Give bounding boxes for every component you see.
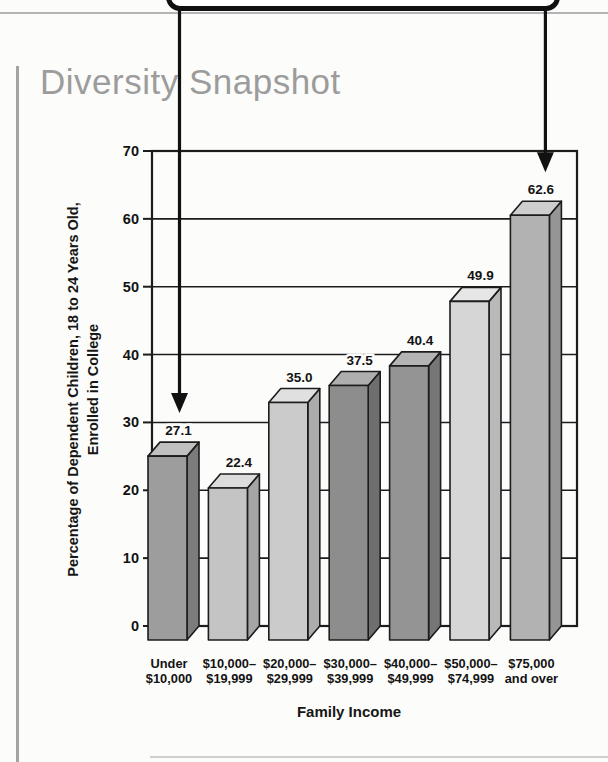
x-category-4-line1: $40,000– (384, 656, 437, 671)
textbook-figure-page: Diversity Snapshot Percentage of Depende… (0, 0, 608, 762)
x-category-1-line1: $10,000– (203, 656, 256, 671)
bar-1-side-face (247, 474, 259, 640)
x-category-2-line1: $20,000– (263, 656, 316, 671)
x-category-0-line2: $10,000 (146, 671, 192, 686)
x-category-3-line1: $30,000– (324, 656, 377, 671)
x-category-3-line2: $39,999 (327, 671, 373, 686)
bar-1-value-label: 22.4 (226, 455, 253, 470)
y-tick-label-30: 30 (123, 414, 139, 430)
x-category-5-line1: $50,000– (444, 656, 497, 671)
bar-2-side-face (308, 389, 320, 641)
bar-4-value-label: 40.4 (407, 333, 434, 348)
bar-6-value-label: 62.6 (528, 182, 555, 197)
annotation-arrowhead-6 (537, 152, 554, 172)
bar-chart: 01020304050607027.1Under$10,00022.4$10,0… (0, 0, 608, 762)
y-tick-label-60: 60 (123, 211, 139, 227)
x-category-5-line2: $74,999 (448, 671, 494, 686)
x-category-6-line2: and over (505, 671, 558, 686)
y-tick-label-40: 40 (123, 347, 139, 363)
bar-3 (329, 372, 380, 640)
y-tick-label-50: 50 (123, 279, 139, 295)
bar-5-value-label: 49.9 (467, 268, 493, 283)
bar-5-front-face (450, 301, 489, 640)
x-axis-title: Family Income (149, 703, 549, 720)
bar-4 (390, 352, 441, 640)
bar-5 (450, 287, 501, 640)
y-tick-label-70: 70 (123, 143, 139, 159)
y-tick-label-10: 10 (123, 550, 139, 566)
bar-6-side-face (549, 201, 561, 640)
y-tick-label-0: 0 (131, 618, 139, 634)
x-category-0-line1: Under (151, 656, 188, 671)
page-bottom-divider (150, 756, 608, 758)
x-category-6-line1: $75,000 (508, 656, 554, 671)
bar-6 (510, 201, 561, 640)
bar-3-side-face (368, 372, 380, 640)
bar-5-side-face (489, 287, 501, 640)
bar-2-value-label: 35.0 (286, 370, 312, 385)
y-tick-label-20: 20 (123, 482, 139, 498)
bar-2 (269, 389, 320, 641)
bar-1 (208, 474, 259, 640)
bar-0-value-label: 27.1 (165, 423, 192, 438)
bar-3-front-face (329, 386, 368, 640)
bar-1-front-face (208, 488, 247, 640)
x-category-4-line2: $49,999 (387, 671, 433, 686)
bar-4-front-face (390, 366, 429, 640)
bar-0 (148, 442, 199, 640)
x-category-2-line2: $29,999 (267, 671, 313, 686)
bar-4-side-face (429, 352, 441, 640)
bar-6-front-face (510, 215, 549, 640)
bar-0-side-face (187, 442, 199, 640)
bar-2-front-face (269, 403, 308, 641)
bar-3-value-label: 37.5 (347, 353, 374, 368)
annotation-arrowhead-0 (171, 393, 188, 413)
bar-0-front-face (148, 456, 187, 640)
x-category-1-line2: $19,999 (206, 671, 252, 686)
